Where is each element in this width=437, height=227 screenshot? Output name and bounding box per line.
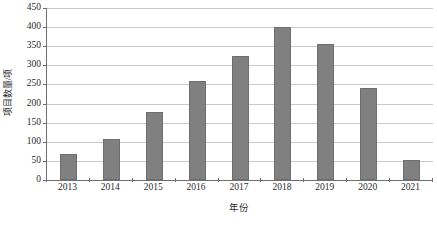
- y-tick-label: 250: [27, 80, 41, 90]
- y-tick-label: 400: [27, 22, 41, 32]
- bar: [189, 81, 206, 180]
- x-tick-mark: [260, 178, 261, 182]
- x-tick-mark: [389, 178, 390, 182]
- y-tick-label: 350: [27, 41, 41, 51]
- bar: [403, 160, 420, 180]
- x-tick-label: 2013: [58, 183, 77, 193]
- x-tick-label: 2019: [315, 183, 334, 193]
- x-tick-mark: [346, 178, 347, 182]
- y-tick-label: 0: [36, 175, 41, 185]
- x-tick-mark: [89, 178, 90, 182]
- x-tick-mark: [46, 178, 47, 182]
- y-tick-label: 100: [27, 137, 41, 147]
- bar: [60, 154, 77, 180]
- x-tick-label: 2020: [358, 183, 377, 193]
- x-axis-tick-labels: 201320142015201620172018201920202021: [46, 183, 432, 199]
- x-tick-label: 2014: [101, 183, 120, 193]
- x-tick-mark: [132, 178, 133, 182]
- bar: [360, 88, 377, 180]
- y-tick-label: 50: [32, 156, 42, 166]
- y-axis-tick-labels: 050100150200250300350400450: [14, 0, 44, 180]
- x-tick-label: 2015: [144, 183, 163, 193]
- bars-layer: [47, 8, 433, 180]
- x-tick-mark: [175, 178, 176, 182]
- x-tick-mark: [218, 178, 219, 182]
- x-axis-title: 年份: [46, 200, 432, 214]
- bar: [103, 139, 120, 180]
- x-tick-label: 2018: [272, 183, 291, 193]
- y-tick-label: 450: [27, 3, 41, 13]
- y-tick-label: 300: [27, 61, 41, 71]
- bar: [317, 44, 334, 180]
- x-tick-label: 2017: [230, 183, 249, 193]
- bar: [232, 56, 249, 180]
- bar-chart-figure: 项目数量/项 050100150200250300350400450 20132…: [0, 0, 437, 227]
- y-tick-label: 200: [27, 99, 41, 109]
- x-tick-mark: [432, 178, 433, 182]
- bar: [146, 112, 163, 180]
- gridline: [47, 180, 433, 181]
- x-tick-label: 2016: [187, 183, 206, 193]
- x-tick-mark: [303, 178, 304, 182]
- plot-area: [46, 8, 433, 181]
- bar: [274, 27, 291, 180]
- x-tick-label: 2021: [401, 183, 420, 193]
- y-tick-label: 150: [27, 118, 41, 128]
- y-axis-title-text: 项目数量/项: [2, 69, 15, 117]
